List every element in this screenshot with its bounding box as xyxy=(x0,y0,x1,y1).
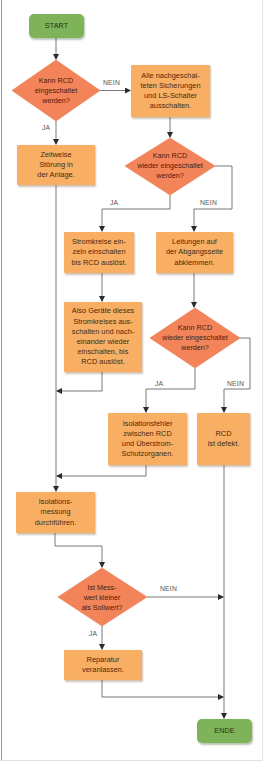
edge-label-d4-ja: JA xyxy=(89,630,97,637)
process-alle-ausschalten-label: Alle nachgeschal- teten Sicherungen und … xyxy=(141,71,201,112)
decision-d3-label: Kann RCD wieder eingeschaltet werden? xyxy=(151,318,239,358)
process-geraete-einschalten-label: Also Geräte dieses Stromkreises aus- sch… xyxy=(72,306,134,367)
end-node: ENDE xyxy=(197,719,252,743)
process-stromkreise-einschalten: Stromkreise ein- zeln einschalten bis RC… xyxy=(64,232,134,273)
edge-label-d4-nein: NEIN xyxy=(160,585,177,592)
edge-label-d2-ja: JA xyxy=(110,199,118,206)
edge-label-d3-nein: NEIN xyxy=(227,380,244,387)
decision-d2-label: Kann RCD wieder eingeschaltet werden? xyxy=(126,146,214,186)
process-rcd-defekt: RCD ist defekt. xyxy=(197,413,250,465)
end-label: ENDE xyxy=(214,726,234,736)
decision-d4-label: Ist Mess- wert kleiner als Sollwert? xyxy=(62,578,142,618)
process-leitungen-abklemmen: Leitungen auf der Abgangsseite abklemmen… xyxy=(156,232,233,273)
process-alle-ausschalten: Alle nachgeschal- teten Sicherungen und … xyxy=(131,65,210,117)
start-label: START xyxy=(45,21,68,31)
edge-label-d1-ja: JA xyxy=(42,124,50,131)
process-stromkreise-einschalten-label: Stromkreise ein- zeln einschalten bis RC… xyxy=(71,237,126,268)
edge-label-d3-ja: JA xyxy=(155,380,163,387)
edge-label-d1-nein: NEIN xyxy=(103,79,120,86)
process-reparatur-label: Reparatur veranlassen. xyxy=(82,655,124,675)
decision-d1-label: Kann RCD eingeschaltet werden? xyxy=(14,70,98,112)
process-reparatur: Reparatur veranlassen. xyxy=(64,650,142,680)
process-isolationsfehler: Isolationsfehler zwischen RCD und Überst… xyxy=(108,413,187,465)
process-geraete-einschalten: Also Geräte dieses Stromkreises aus- sch… xyxy=(64,302,142,372)
process-leitungen-abklemmen-label: Leitungen auf der Abgangsseite abklemmen… xyxy=(166,237,223,268)
process-zeitweise-stoerung: Zeitweise Störung in der Anlage. xyxy=(17,145,95,185)
process-isolationsmessung-label: Isolations- messung durchführen. xyxy=(35,497,77,528)
process-zeitweise-stoerung-label: Zeitweise Störung in der Anlage. xyxy=(37,150,74,181)
process-rcd-defekt-label: RCD ist defekt. xyxy=(208,429,240,449)
start-node: START xyxy=(29,14,84,38)
edge-label-d2-nein: NEIN xyxy=(200,199,217,206)
process-isolationsfehler-label: Isolationsfehler zwischen RCD und Überst… xyxy=(122,419,174,460)
process-isolationsmessung: Isolations- messung durchführen. xyxy=(16,492,95,533)
